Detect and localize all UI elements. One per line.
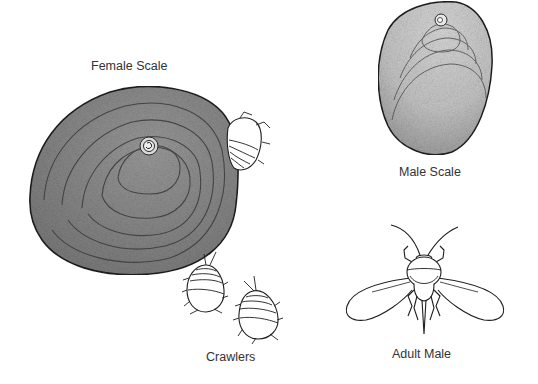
crawler-2 (233, 276, 283, 344)
crawler-on-scale (227, 112, 270, 170)
male-scale-drawing (378, 2, 492, 155)
label-male-scale: Male Scale (399, 165, 461, 179)
label-adult-male: Adult Male (392, 347, 451, 361)
illustration-canvas (0, 0, 538, 384)
label-female-scale: Female Scale (91, 59, 167, 73)
female-scale-drawing (30, 86, 238, 274)
thorax (407, 257, 441, 287)
adult-male-drawing (346, 225, 503, 334)
male-scale-spire (435, 14, 447, 26)
female-scale-spire (140, 137, 158, 155)
abdomen (414, 284, 434, 301)
label-crawlers: Crawlers (206, 350, 255, 364)
